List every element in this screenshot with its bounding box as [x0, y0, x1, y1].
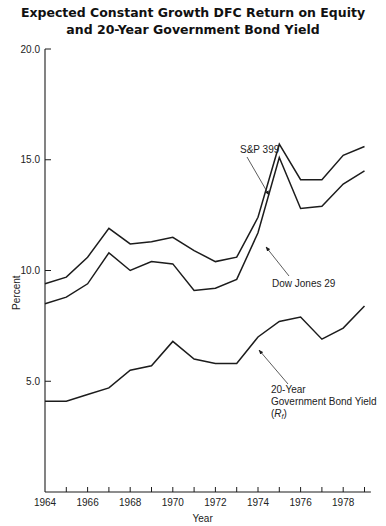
- label-bond-line2: Government Bond Yield: [271, 396, 377, 407]
- x-tick-label: 1976: [289, 497, 312, 508]
- sp-399-line: [45, 144, 365, 284]
- x-tick-label: 1966: [76, 497, 99, 508]
- y-tick-label: 15.0: [21, 154, 41, 165]
- arrow-dow-jones-29: [266, 247, 289, 276]
- x-tick-label: 1978: [332, 497, 355, 508]
- label-bond-line3: (Rf): [271, 408, 287, 420]
- x-tick-label: 1974: [247, 497, 270, 508]
- arrow-bond-yield: [259, 350, 288, 384]
- x-tick-label: 1968: [119, 497, 142, 508]
- label-sp-399: S&P 399: [240, 144, 280, 155]
- y-axis-title: Percent: [11, 275, 22, 310]
- line-chart: 5.010.015.020.01964196619681970197219741…: [0, 0, 386, 526]
- label-bond-line1: 20-Year: [271, 384, 306, 395]
- y-tick-label: 5.0: [26, 376, 40, 387]
- bond-yield-line: [45, 306, 365, 401]
- y-tick-label: 20.0: [21, 44, 41, 55]
- x-tick-label: 1964: [34, 497, 57, 508]
- x-tick-label: 1972: [204, 497, 227, 508]
- x-axis-title: Year: [193, 513, 214, 524]
- annotations: S&P 399Dow Jones 2920-YearGovernment Bon…: [240, 144, 377, 420]
- y-tick-label: 10.0: [21, 265, 41, 276]
- label-dow-jones-29: Dow Jones 29: [272, 278, 336, 289]
- x-tick-label: 1970: [162, 497, 185, 508]
- series-lines: [45, 144, 365, 401]
- arrow-sp-399: [247, 157, 269, 195]
